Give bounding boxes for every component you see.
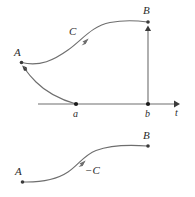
label-curve-minus-c: −C bbox=[85, 165, 100, 176]
label-curve-c: C bbox=[69, 26, 76, 37]
vertical-segment-arrowhead bbox=[145, 26, 151, 32]
curve-c-group bbox=[22, 21, 148, 64]
point-A-lower-dot bbox=[21, 180, 25, 184]
curve-a-to-A-group bbox=[22, 66, 76, 104]
curve-c-direction-arrowhead-2 bbox=[83, 39, 89, 45]
point-B-upper-dot bbox=[146, 20, 150, 24]
vertical-segment-group bbox=[145, 26, 151, 105]
label-point-A-lower: A bbox=[15, 166, 22, 177]
point-b-tick-dot bbox=[146, 102, 150, 106]
label-point-B-upper: B bbox=[143, 5, 150, 16]
label-point-A-upper: A bbox=[14, 47, 21, 58]
point-A-upper-dot bbox=[20, 61, 24, 65]
label-axis-tick-a: a bbox=[73, 109, 78, 119]
label-t-axis: t bbox=[175, 108, 178, 118]
curve-a-to-A-path bbox=[25, 69, 77, 105]
figure-container: A B C a b t A B −C bbox=[0, 0, 195, 197]
point-B-lower-dot bbox=[146, 144, 150, 148]
point-a-tick-dot bbox=[74, 102, 78, 106]
label-point-B-lower: B bbox=[143, 130, 150, 141]
label-axis-tick-b: b bbox=[145, 109, 150, 119]
t-axis-group bbox=[38, 101, 180, 108]
